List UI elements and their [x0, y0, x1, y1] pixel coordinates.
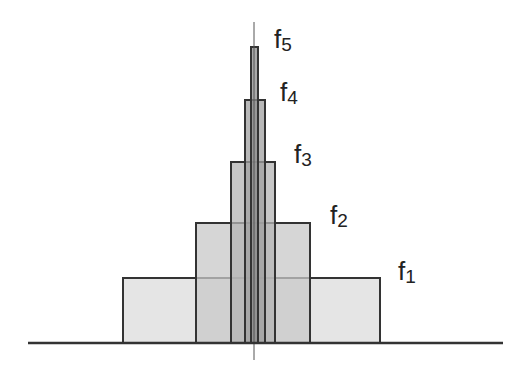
pyramid-diagram [0, 0, 528, 368]
label-f3: f3 [294, 141, 312, 169]
label-f5: f5 [274, 26, 292, 54]
label-f1: f1 [398, 258, 416, 286]
label-f2: f2 [330, 202, 348, 230]
frequency-rects [123, 47, 380, 343]
label-f4: f4 [280, 79, 298, 107]
